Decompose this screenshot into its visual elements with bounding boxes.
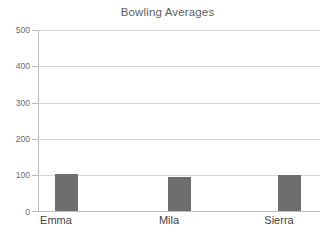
category-label-mila: Mila (139, 214, 199, 227)
gridline-400 (38, 66, 320, 67)
y-axis-tick-labels: 500 400 300 200 100 0 (0, 0, 30, 244)
y-tick-label-200: 200 (2, 135, 30, 144)
bar-sierra (278, 175, 301, 211)
bar-emma (55, 174, 78, 211)
category-label-sierra: Sierra (249, 214, 309, 227)
gridline-200 (38, 139, 320, 140)
gridline-500 (38, 30, 320, 31)
bar-mila (168, 177, 191, 211)
gridline-300 (38, 103, 320, 104)
y-tick-label-500: 500 (2, 26, 30, 35)
bar-chart: Bowling Averages 500 400 300 200 100 0 E… (0, 0, 335, 244)
category-label-emma: Emma (26, 214, 86, 227)
y-tick-label-100: 100 (2, 171, 30, 180)
y-tick-label-300: 300 (2, 99, 30, 108)
chart-title: Bowling Averages (0, 6, 335, 18)
y-tick-label-400: 400 (2, 62, 30, 71)
plot-area (38, 30, 320, 211)
category-axis-line (38, 211, 320, 212)
